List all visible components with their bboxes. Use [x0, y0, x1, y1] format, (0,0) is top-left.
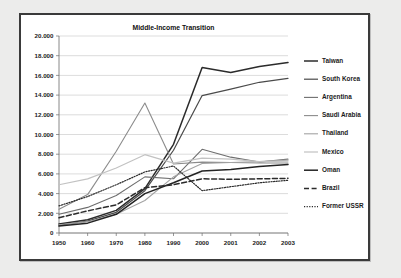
- legend-label-mexico: Mexico: [322, 148, 344, 155]
- series-line-thailand: [59, 160, 288, 225]
- legend-label-argentina: Argentina: [322, 93, 352, 101]
- legend-label-brazil: Brazil: [322, 184, 340, 191]
- x-axis-tick-label: 1990: [167, 239, 181, 246]
- series-line-south-korea: [59, 78, 288, 225]
- x-axis-tick-label: 1970: [109, 239, 123, 246]
- series-line-mexico: [59, 155, 288, 185]
- line-chart: 02.0004.0006.0008.00010.00012.00014.0001…: [21, 15, 368, 259]
- y-axis-tick-label: 16.000: [35, 72, 54, 79]
- x-axis-tick-label: 2003: [281, 239, 295, 246]
- y-axis-tick-label: 18.000: [35, 52, 54, 59]
- legend-label-saudi-arabia: Saudi Arabia: [322, 111, 361, 118]
- x-axis-tick-label: 2002: [252, 239, 266, 246]
- series-line-taiwan: [59, 63, 288, 224]
- series-line-brazil: [59, 178, 288, 217]
- y-axis-tick-label: 14.000: [35, 91, 54, 98]
- y-axis-tick-label: 6.000: [38, 170, 54, 177]
- y-axis-tick-label: 10.000: [35, 131, 54, 138]
- y-axis-tick-label: 12.000: [35, 111, 54, 118]
- chart-screenshot: 02.0004.0006.0008.00010.00012.00014.0001…: [0, 0, 401, 278]
- x-axis-tick-label: 1980: [138, 239, 152, 246]
- legend-label-oman: Oman: [322, 166, 340, 173]
- x-axis-tick-label: 2000: [195, 239, 209, 246]
- chart-title: Middle-Income Transition: [133, 24, 215, 31]
- legend-label-thailand: Thailand: [322, 129, 348, 136]
- series-line-argentina: [59, 149, 288, 214]
- y-axis-tick-label: 2.000: [38, 210, 54, 217]
- y-axis-tick-label: 8.000: [38, 150, 54, 157]
- legend-label-taiwan: Taiwan: [322, 57, 343, 64]
- y-axis-tick-label: 4.000: [38, 190, 54, 197]
- x-axis-tick-label: 2001: [224, 239, 238, 246]
- y-axis-tick-label: 20.000: [35, 32, 54, 39]
- chart-frame: 02.0004.0006.0008.00010.00012.00014.0001…: [19, 13, 370, 261]
- legend-label-south-korea: South Korea: [322, 75, 360, 82]
- x-axis-tick-label: 1950: [52, 239, 66, 246]
- legend-label-former-ussr: Former USSR: [322, 202, 364, 209]
- y-axis-tick-label: 0: [50, 229, 54, 236]
- x-axis-tick-label: 1960: [81, 239, 95, 246]
